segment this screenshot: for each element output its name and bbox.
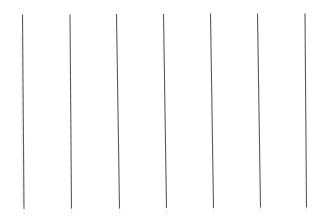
vertical-line-figure — [0, 0, 325, 217]
screenshot-canvas — [0, 0, 325, 217]
figure-background — [0, 0, 325, 217]
